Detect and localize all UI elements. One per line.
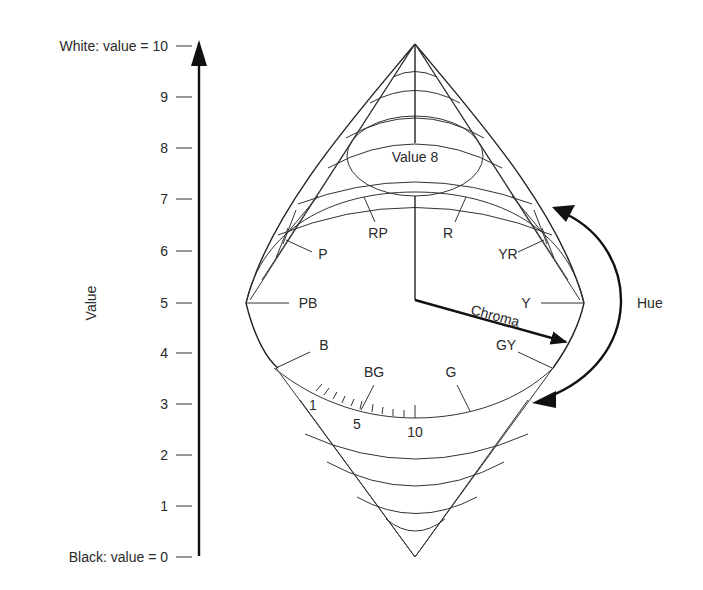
value-8-label: Value 8 <box>392 149 439 165</box>
tick-label-8: 8 <box>160 140 168 156</box>
hue-label-bg: BG <box>364 364 384 380</box>
hue-label-r: R <box>443 225 453 241</box>
value-axis-title: Value <box>83 285 99 320</box>
tick-label-5: 5 <box>160 295 168 311</box>
tick-label-2: 2 <box>160 447 168 463</box>
chroma-label: Chroma <box>469 301 521 329</box>
hue-label-y: Y <box>521 295 531 311</box>
hue-label-g: G <box>446 364 457 380</box>
hue-label-p: P <box>318 246 327 262</box>
hue-arrow-bottom-icon <box>532 391 556 408</box>
chroma-tick-1: 1 <box>309 397 317 413</box>
chroma-tick-10: 10 <box>407 424 423 440</box>
white-value-label: White: value = 10 <box>59 38 168 54</box>
munsell-color-solid-diagram: White: value = 10 Black: value = 0 9 8 7… <box>0 0 703 590</box>
tick-label-1: 1 <box>160 498 168 514</box>
tick-label-9: 9 <box>160 89 168 105</box>
hue-label-pb: PB <box>299 295 318 311</box>
tick-label-4: 4 <box>160 345 168 361</box>
arrow-up-icon <box>191 40 207 66</box>
hue-arrow-top-icon <box>552 205 575 222</box>
hue-label-rp: RP <box>368 225 387 241</box>
hue-label-b: B <box>319 337 328 353</box>
hue-label: Hue <box>637 295 663 311</box>
tick-label-3: 3 <box>160 396 168 412</box>
tick-label-7: 7 <box>160 191 168 207</box>
chroma-tick-5: 5 <box>353 416 361 432</box>
value-axis <box>176 40 207 557</box>
hue-label-yr: YR <box>498 246 517 262</box>
hue-label-gy: GY <box>496 337 517 353</box>
tick-label-6: 6 <box>160 243 168 259</box>
black-value-label: Black: value = 0 <box>69 549 168 565</box>
